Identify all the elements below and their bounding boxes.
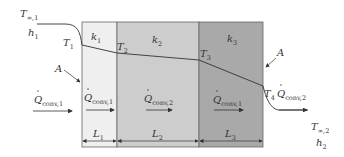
left-fluid-temp: T∞,1 xyxy=(20,8,38,22)
area-pointer-left xyxy=(64,70,80,82)
heat-flow-left-fluid: Qconv,1 xyxy=(34,94,63,108)
temperature-profile-left-fluid xyxy=(37,24,82,45)
temp-t1: T1 xyxy=(63,37,74,51)
composite-wall-diagram: T∞,1 h1 T1 T2 T3 T4 k1 k2 k3 A A Qconv,1… xyxy=(0,0,344,157)
left-fluid-h: h1 xyxy=(28,27,39,41)
temp-t4: T4 xyxy=(264,88,275,102)
heat-flow-right-fluid: Qconv,2 xyxy=(277,88,306,102)
area-label-right: A xyxy=(276,47,284,58)
right-fluid-temp: T∞,2 xyxy=(311,121,329,135)
area-pointer-right xyxy=(266,58,276,67)
area-label-left: A xyxy=(54,63,62,74)
right-fluid-h: h2 xyxy=(316,137,327,151)
